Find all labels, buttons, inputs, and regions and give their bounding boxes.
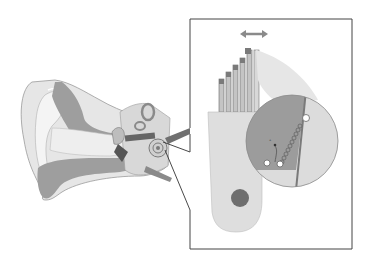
stereocilia-bundle: [219, 48, 259, 112]
nucleus: [231, 189, 249, 207]
ear-diagram: +: [0, 0, 367, 263]
bidirectional-arrow-icon: [240, 30, 268, 38]
